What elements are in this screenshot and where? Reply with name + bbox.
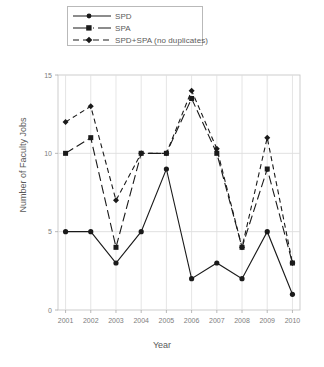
x-axis-tick-label: 2009: [259, 317, 275, 324]
legend-swatch-spd-spa: [72, 35, 112, 45]
x-axis-tick-label: 2005: [159, 317, 175, 324]
legend-label-spd: SPD: [115, 12, 132, 21]
plot-frame: [58, 75, 300, 310]
data-point-marker: [88, 103, 94, 109]
x-axis-title: Year: [0, 340, 324, 350]
data-point-marker: [88, 229, 93, 234]
line-chart-canvas: 0510152001200220032004200520062007200820…: [0, 0, 324, 367]
data-point-marker: [139, 229, 144, 234]
x-axis-tick-label: 2003: [108, 317, 124, 324]
y-axis-tick-label: 15: [44, 72, 52, 79]
legend-label-spd-spa: SPD+SPA (no duplicates): [115, 36, 208, 45]
data-point-marker: [113, 197, 119, 203]
x-axis-tick-label: 2002: [83, 317, 99, 324]
data-point-marker: [239, 276, 244, 281]
data-point-marker: [113, 260, 118, 265]
x-axis-tick-label: 2010: [285, 317, 301, 324]
chart-figure: 0510152001200220032004200520062007200820…: [0, 0, 324, 367]
data-point-marker: [164, 166, 169, 171]
data-point-marker: [63, 151, 68, 156]
x-axis-tick-label: 2004: [133, 317, 149, 324]
data-point-marker: [214, 260, 219, 265]
data-point-marker: [189, 96, 194, 101]
legend-label-spa: SPA: [115, 24, 131, 33]
y-axis-tick-label: 0: [48, 307, 52, 314]
legend-item-spd-spa: SPD+SPA (no duplicates): [72, 34, 202, 46]
x-axis-tick-label: 2007: [209, 317, 225, 324]
legend-item-spd: SPD: [72, 10, 202, 22]
y-axis-title: Number of Faculty Jobs: [18, 95, 28, 235]
y-axis-tick-label: 10: [44, 150, 52, 157]
x-axis-tick-label: 2006: [184, 317, 200, 324]
data-point-marker: [264, 135, 270, 141]
chart-legend: SPD SPA SPD+SPA (no duplicates): [67, 6, 203, 46]
legend-swatch-spa: [72, 23, 112, 33]
data-point-marker: [265, 229, 270, 234]
x-axis-tick-label: 2001: [58, 317, 74, 324]
legend-item-spa: SPA: [72, 22, 202, 34]
y-axis-tick-label: 5: [48, 228, 52, 235]
legend-swatch-spd: [72, 11, 112, 21]
data-point-marker: [63, 119, 69, 125]
data-point-marker: [214, 146, 220, 152]
data-point-marker: [290, 292, 295, 297]
x-axis-tick-label: 2008: [234, 317, 250, 324]
data-point-marker: [189, 276, 194, 281]
data-point-marker: [63, 229, 68, 234]
data-point-marker: [189, 88, 195, 94]
data-point-marker: [265, 167, 270, 172]
data-point-marker: [88, 135, 93, 140]
data-point-marker: [113, 245, 118, 250]
